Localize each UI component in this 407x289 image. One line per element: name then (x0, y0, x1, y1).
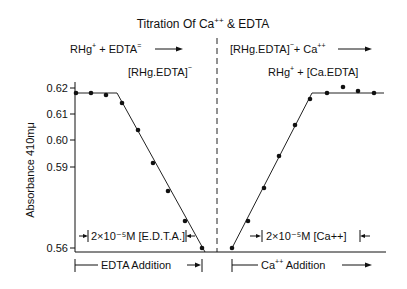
arrow-right-icon (176, 47, 183, 52)
svg-text:[RHg.EDTA]−+ Ca++: [RHg.EDTA]−+ Ca++ (230, 41, 326, 55)
arrow-right-icon (365, 263, 372, 268)
y-tick-label: 0.56 (47, 242, 68, 254)
data-point (325, 91, 330, 96)
data-point (120, 101, 125, 106)
data-point (74, 91, 79, 96)
svg-text:Ca++ Addition: Ca++ Addition (261, 258, 325, 271)
svg-text:RHg+ + [Ca.EDTA]: RHg+ + [Ca.EDTA] (268, 65, 358, 78)
data-point (136, 128, 141, 133)
data-point (277, 154, 282, 159)
data-point (372, 91, 377, 96)
right-interval-annotation: 2×10⁻⁵M [Ca++] (250, 230, 370, 242)
edta-addition-label: EDTA Addition (75, 259, 202, 272)
svg-text:EDTA Addition: EDTA Addition (101, 259, 171, 271)
svg-text:2×10⁻⁵M [Ca++]: 2×10⁻⁵M [Ca++] (266, 230, 347, 242)
data-point (341, 85, 346, 90)
data-point (151, 161, 156, 166)
left-reaction: RHg+ + EDTA= [RHg.EDTA]− (70, 42, 192, 78)
svg-text:2×10⁻⁵M [E.D.T.A.]: 2×10⁻⁵M [E.D.T.A.] (91, 230, 185, 242)
y-axis-label: Absorbance 410mμ (24, 122, 36, 218)
data-point (262, 186, 267, 191)
svg-text:RHg+ + EDTA=: RHg+ + EDTA= (70, 42, 141, 55)
y-tick-label: 0.62 (47, 82, 68, 94)
data-point (200, 246, 205, 251)
left-data-points (74, 91, 205, 251)
data-point (230, 246, 235, 251)
titration-chart: Titration Of Ca++ & EDTA RHg+ + EDTA= [R… (0, 0, 407, 289)
data-point (183, 219, 188, 224)
data-point (166, 189, 171, 194)
y-tick-label: 0.60 (47, 134, 68, 146)
y-ticks: 0.620.610.600.590.56 (47, 82, 75, 254)
right-fit-line (231, 93, 384, 250)
ca-addition-label: Ca++ Addition (232, 258, 372, 272)
chart-title: Titration Of Ca++ & EDTA (137, 16, 270, 31)
data-point (104, 93, 109, 98)
data-point (89, 91, 94, 96)
data-point (308, 97, 313, 102)
left-interval-annotation: 2×10⁻⁵M [E.D.T.A.] (79, 230, 195, 242)
data-point (293, 123, 298, 128)
y-tick-label: 0.61 (47, 108, 68, 120)
arrow-right-icon (365, 47, 372, 52)
data-point (356, 89, 361, 94)
y-tick-label: 0.59 (47, 161, 68, 173)
right-reaction: [RHg.EDTA]−+ Ca++ RHg+ + [Ca.EDTA] (230, 41, 372, 78)
data-point (246, 219, 251, 224)
svg-text:[RHg.EDTA]−: [RHg.EDTA]− (128, 64, 192, 78)
left-fit-line (75, 93, 205, 252)
